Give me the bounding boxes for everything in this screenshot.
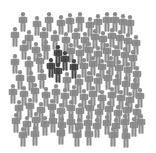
crowd-illustration: Crowd of people with a highlighted group bbox=[0, 0, 156, 153]
person-icon bbox=[104, 70, 113, 90]
person-icon bbox=[9, 84, 18, 104]
person-icon bbox=[11, 54, 20, 74]
highlighted-person-icon bbox=[47, 58, 56, 78]
person-icon bbox=[11, 27, 20, 47]
person-icon bbox=[12, 113, 21, 133]
person-icon bbox=[109, 127, 118, 147]
person-icon bbox=[19, 12, 28, 32]
crowd-figures bbox=[0, 0, 156, 153]
person-icon bbox=[103, 12, 112, 32]
person-icon bbox=[66, 13, 75, 33]
person-icon bbox=[57, 15, 66, 35]
person-icon bbox=[126, 15, 135, 35]
person-icon bbox=[67, 114, 76, 134]
